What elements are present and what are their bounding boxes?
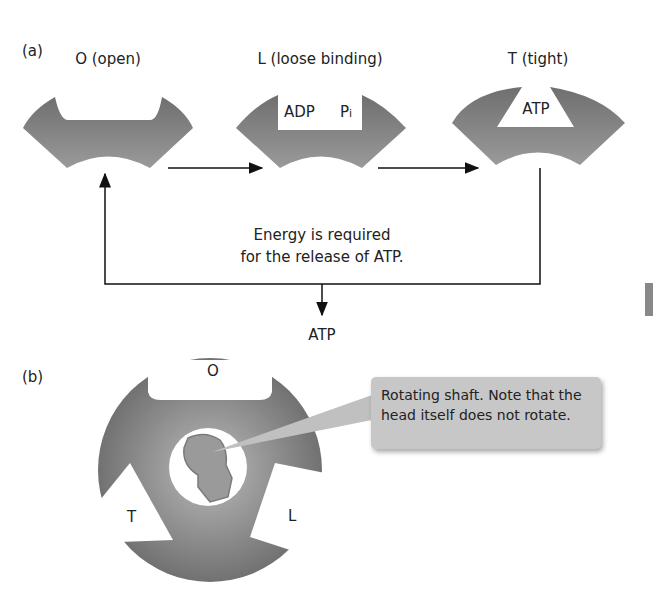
shaft-callout: Rotating shaft. Note that the head itsel… <box>371 377 601 449</box>
panel-b-label: (b) <box>22 368 43 386</box>
released-atp-label: ATP <box>308 326 335 344</box>
subunit-open-shape <box>23 97 193 168</box>
subunit-loose-shape <box>236 95 406 168</box>
adp-label: ADP <box>284 103 315 121</box>
subunit-tight-shape <box>452 87 625 165</box>
f1-head <box>90 358 330 582</box>
site-open-label: O <box>207 362 219 380</box>
site-tight-label: T <box>127 508 136 526</box>
pi-label: Pi <box>340 103 352 121</box>
energy-note-line2: for the release of ATP. <box>240 248 403 266</box>
state-loose-label: L (loose binding) <box>257 50 382 68</box>
energy-note-line1: Energy is required <box>254 226 391 244</box>
edge-tab <box>645 283 653 316</box>
atp-bound-label: ATP <box>522 100 549 118</box>
panel-a-label: (a) <box>22 42 43 60</box>
state-open-label: O (open) <box>75 50 141 68</box>
state-tight-label: T (tight) <box>508 50 569 68</box>
site-loose-label: L <box>288 507 296 525</box>
diagram-canvas <box>0 0 653 600</box>
